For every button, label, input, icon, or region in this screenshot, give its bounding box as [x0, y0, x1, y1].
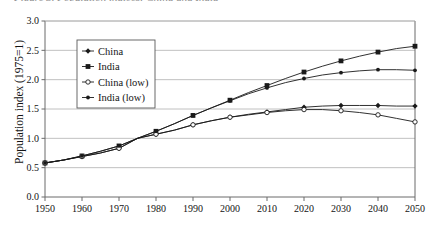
filled-square-marker [339, 58, 344, 63]
x-axis-tick-label: 2010 [257, 203, 277, 214]
legend-label: India [98, 61, 120, 72]
open-circle-marker [86, 80, 90, 84]
series-china-low [43, 107, 417, 165]
filled-circle-marker [228, 99, 232, 103]
filled-square-marker [302, 70, 307, 75]
x-axis-tick-label: 1950 [35, 203, 55, 214]
open-circle-marker [339, 109, 343, 113]
legend-label: India (low) [98, 92, 145, 104]
legend-label: China (low) [98, 77, 149, 89]
figure-caption-cropped: Figure 3. Population indices: China and … [14, 0, 414, 1]
x-axis-tick-label: 2020 [294, 203, 314, 214]
filled-circle-marker [413, 68, 417, 72]
y-axis-tick-label: 2.0 [27, 74, 40, 85]
filled-diamond-marker [338, 103, 343, 108]
y-axis-tick-label: 3.0 [27, 15, 40, 26]
filled-square-marker [86, 64, 91, 69]
open-circle-marker [376, 113, 380, 117]
filled-circle-marker [376, 68, 380, 72]
filled-circle-marker [191, 114, 195, 118]
y-axis-tick-label: 0.5 [27, 162, 40, 173]
chart-legend: ChinaIndiaChina (low)India (low) [77, 40, 155, 108]
filled-circle-marker [117, 144, 121, 148]
series-line [45, 105, 415, 162]
chart-plot-area: 0.00.51.01.52.02.53.01950196019701980199… [0, 0, 433, 232]
filled-circle-marker [154, 129, 158, 133]
open-circle-marker [413, 120, 417, 124]
series-china [42, 103, 417, 166]
y-axis-tick-label: 1.5 [27, 103, 40, 114]
y-axis-tick-label: 1.0 [27, 133, 40, 144]
y-axis-label: Population index (1975=1) [13, 27, 25, 177]
open-circle-marker [191, 123, 195, 127]
filled-square-marker [413, 44, 418, 49]
x-axis-tick-label: 1980 [146, 203, 166, 214]
filled-circle-marker [265, 86, 269, 90]
filled-circle-marker [80, 154, 84, 158]
filled-circle-marker [339, 71, 343, 75]
open-circle-marker [302, 107, 306, 111]
filled-diamond-marker [375, 103, 380, 108]
y-axis-tick-label: 0.0 [27, 191, 40, 202]
filled-circle-marker [86, 96, 90, 100]
population-index-figure: Figure 3. Population indices: China and … [0, 0, 433, 232]
x-axis-tick-label: 2000 [220, 203, 240, 214]
open-circle-marker [228, 115, 232, 119]
x-axis-tick-label: 1960 [72, 203, 92, 214]
filled-diamond-marker [412, 103, 417, 108]
x-axis-tick-label: 2040 [368, 203, 388, 214]
x-axis-tick-label: 1970 [109, 203, 129, 214]
y-axis-tick-label: 2.5 [27, 45, 40, 56]
filled-square-marker [376, 50, 381, 55]
x-axis-tick-label: 1990 [183, 203, 203, 214]
filled-circle-marker [302, 77, 306, 81]
x-axis-tick-label: 2050 [405, 203, 425, 214]
open-circle-marker [265, 110, 269, 114]
filled-circle-marker [43, 161, 47, 165]
legend-label: China [98, 46, 123, 57]
x-axis-tick-label: 2030 [331, 203, 351, 214]
